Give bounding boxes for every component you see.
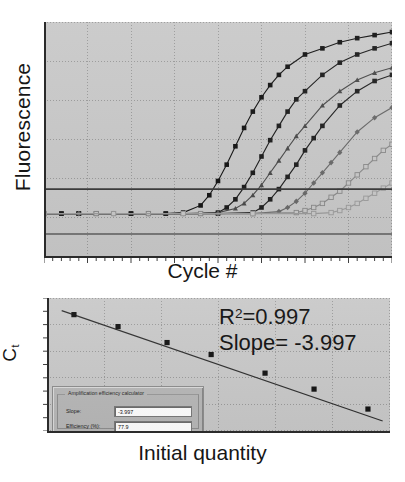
standard-curve-point xyxy=(115,324,120,329)
curve-marker xyxy=(372,46,377,51)
amplification-curve xyxy=(44,43,392,213)
curve-marker xyxy=(294,162,299,167)
curve-marker xyxy=(329,195,333,199)
curve-marker xyxy=(389,105,392,111)
curve-marker xyxy=(198,203,203,208)
curve-marker xyxy=(390,181,392,185)
curve-marker xyxy=(251,211,255,215)
curve-marker xyxy=(268,197,273,202)
standard-curve-y-axis xyxy=(47,298,49,431)
curve-marker xyxy=(303,52,308,57)
standard-curve-y-ticks xyxy=(41,298,47,431)
curve-marker xyxy=(285,205,290,211)
curve-marker xyxy=(320,201,324,205)
curve-marker xyxy=(224,205,229,210)
standard-curve-point xyxy=(262,371,267,376)
amplification-y-axis xyxy=(44,22,46,256)
slope-field-label: Slope: xyxy=(66,408,81,414)
slope-field-input[interactable]: -3.997 xyxy=(114,406,192,417)
amplification-efficiency-calculator-dialog[interactable]: Amplification efficiency calculator Slop… xyxy=(52,386,204,431)
ct-label-main: C xyxy=(0,348,20,362)
curve-marker xyxy=(294,97,299,102)
standard-curve-panel: Ct R2=0.997 Slope= -3.997 Amplification … xyxy=(0,285,405,482)
curve-marker xyxy=(181,211,185,215)
standard-curve-point xyxy=(365,406,370,411)
curve-marker xyxy=(320,124,325,129)
slope-row: Slope: -3.997 xyxy=(66,406,192,417)
standard-curve-point xyxy=(164,340,169,345)
amplification-curve xyxy=(44,32,392,214)
curve-marker xyxy=(277,73,282,78)
curve-marker xyxy=(364,164,368,168)
amplification-plot-area xyxy=(44,22,392,256)
amplification-curve xyxy=(44,108,392,214)
curve-marker xyxy=(216,179,221,184)
curve-marker xyxy=(337,89,342,94)
curve-marker xyxy=(277,124,282,129)
curve-marker xyxy=(312,211,316,215)
curve-marker xyxy=(303,89,308,94)
ct-label-subscript: t xyxy=(8,344,21,347)
curve-marker xyxy=(346,181,350,185)
calculator-group-box: Amplification efficiency calculator Slop… xyxy=(57,394,199,429)
r-squared-value: =0.997 xyxy=(242,304,310,329)
curve-marker xyxy=(338,208,342,212)
r-squared-prefix: R xyxy=(219,304,235,329)
curve-marker xyxy=(268,83,273,88)
regression-statistics: R2=0.997 Slope= -3.997 xyxy=(219,304,357,356)
calculator-group-title: Amplification efficiency calculator xyxy=(65,390,147,396)
r-squared-annotation: R2=0.997 xyxy=(219,304,357,330)
curve-marker xyxy=(285,64,290,69)
amplification-panel: Fluorescence Cycle # xyxy=(0,0,405,285)
curve-marker xyxy=(364,196,368,200)
curve-marker xyxy=(320,46,325,51)
curve-marker xyxy=(390,41,392,46)
curve-marker xyxy=(233,144,238,149)
curve-marker xyxy=(242,126,247,131)
curve-marker xyxy=(303,148,308,153)
curve-marker xyxy=(372,156,376,160)
curve-marker xyxy=(390,30,392,35)
curve-marker xyxy=(338,103,343,108)
curve-marker xyxy=(390,142,392,146)
curve-marker xyxy=(338,40,343,45)
standard-curve-plot-area: R2=0.997 Slope= -3.997 Amplification eff… xyxy=(47,298,390,431)
curve-marker xyxy=(346,205,350,209)
curve-marker xyxy=(268,138,273,143)
amplification-curves xyxy=(44,22,392,256)
curve-marker xyxy=(338,60,343,65)
curve-marker xyxy=(303,208,307,212)
amplification-y-axis-label: Fluorescence xyxy=(11,42,35,212)
curve-marker xyxy=(285,175,290,180)
curve-marker xyxy=(259,95,264,100)
curve-marker xyxy=(355,173,359,177)
standard-curve-point xyxy=(311,387,316,392)
curve-marker xyxy=(355,52,360,57)
standard-curve-x-axis-label: Initial quantity xyxy=(0,441,405,465)
efficiency-row: Efficiency (%): 77.9 xyxy=(66,421,192,431)
curve-marker xyxy=(355,36,360,41)
standard-curve-point xyxy=(71,312,76,317)
efficiency-field-input[interactable]: 77.9 xyxy=(114,421,192,431)
curve-marker xyxy=(207,193,212,198)
curve-marker xyxy=(372,33,377,38)
standard-curve-x-axis xyxy=(47,431,390,433)
curve-marker xyxy=(329,210,333,214)
curve-marker xyxy=(233,206,238,211)
curve-marker xyxy=(224,162,229,167)
curve-marker xyxy=(390,65,393,70)
curve-marker xyxy=(233,197,238,202)
curve-marker xyxy=(111,211,115,215)
slope-annotation: Slope= -3.997 xyxy=(219,330,357,356)
curve-marker xyxy=(355,89,360,94)
curve-marker xyxy=(355,201,359,205)
amplification-x-axis-label: Cycle # xyxy=(0,259,405,283)
curve-marker xyxy=(285,109,290,114)
curve-marker xyxy=(311,136,316,141)
curve-marker xyxy=(251,171,256,176)
standard-curve-y-axis-label: Ct xyxy=(0,303,21,403)
curve-marker xyxy=(259,154,264,159)
curve-marker xyxy=(259,205,264,210)
curve-marker xyxy=(372,79,377,84)
curve-marker xyxy=(312,205,316,209)
